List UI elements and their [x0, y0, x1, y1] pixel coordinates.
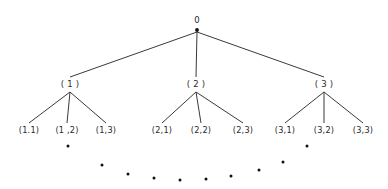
edge-level1-to-level2-5 — [196, 92, 201, 123]
edge-level1-to-level2-3 — [70, 92, 106, 123]
edge-level1-to-level2-4 — [162, 92, 196, 123]
ellipsis-dot-8 — [258, 169, 261, 172]
level2-node-label-3: (1,3) — [96, 125, 116, 135]
ellipsis-dot-6 — [205, 178, 208, 181]
edge-level1-to-level2-2 — [67, 92, 70, 123]
level1-node-label-1: ( 1 ) — [61, 79, 79, 89]
level1-node-label-3: ( 3 ) — [315, 79, 333, 89]
level2-label-group: (1.1)(1 ,2)(1,3)(2,1)(2,2)(2,3)(3,1)(3,2… — [19, 125, 373, 135]
ellipsis-dot-7 — [230, 175, 233, 178]
level2-node-label-1: (1.1) — [19, 125, 39, 135]
ellipsis-dot-3 — [127, 173, 130, 176]
edge-group-level1-to-level2 — [29, 92, 363, 123]
tree-diagram-canvas: 0 ( 1 )( 2 )( 3 ) (1.1)(1 ,2)(1,3)(2,1)(… — [0, 0, 388, 189]
edge-level1-to-level2-7 — [285, 92, 324, 123]
edge-root-to-level1-1 — [70, 32, 197, 77]
tree-diagram: 0 ( 1 )( 2 )( 3 ) (1.1)(1 ,2)(1,3)(2,1)(… — [0, 0, 388, 189]
root-node-group: 0 — [194, 15, 200, 32]
edge-root-to-level1-3 — [197, 32, 324, 77]
ellipsis-dot-group — [67, 145, 309, 182]
level2-node-label-6: (2,3) — [233, 125, 253, 135]
ellipsis-dot-5 — [179, 179, 182, 182]
level2-node-label-2: (1 ,2) — [55, 125, 78, 135]
level1-label-group: ( 1 )( 2 )( 3 ) — [61, 79, 333, 89]
edge-level1-to-level2-6 — [196, 92, 243, 123]
edge-group-root-to-level1 — [70, 32, 324, 77]
edge-level1-to-level2-9 — [324, 92, 363, 123]
ellipsis-dot-2 — [101, 164, 104, 167]
root-node-label: 0 — [194, 15, 200, 25]
ellipsis-dot-10 — [306, 145, 309, 148]
level2-node-label-9: (3,3) — [353, 125, 373, 135]
edge-root-to-level1-2 — [196, 32, 197, 77]
level1-node-label-2: ( 2 ) — [187, 79, 205, 89]
level2-node-label-4: (2,1) — [152, 125, 172, 135]
level2-node-label-5: (2,2) — [191, 125, 211, 135]
ellipsis-dot-4 — [153, 177, 156, 180]
ellipsis-dot-9 — [282, 161, 285, 164]
level2-node-label-8: (3,2) — [314, 125, 334, 135]
level2-node-label-7: (3,1) — [275, 125, 295, 135]
edge-level1-to-level2-1 — [29, 92, 70, 123]
ellipsis-dot-1 — [67, 145, 70, 148]
root-node-dot — [195, 28, 199, 32]
